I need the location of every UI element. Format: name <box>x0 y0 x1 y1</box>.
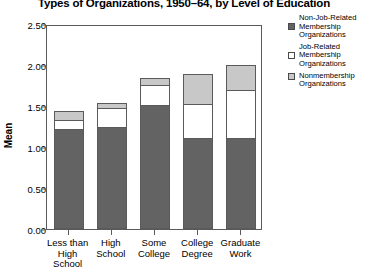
y-axis-tick-label: 2.00 <box>4 61 46 72</box>
legend-label: Non-Job-RelatedMembershipOrganizations <box>299 14 368 40</box>
y-axis-label: Mean <box>3 106 14 166</box>
legend-swatch-icon <box>288 23 295 30</box>
legend-swatch-icon <box>288 52 295 59</box>
x-axis-tick-mark <box>154 230 155 235</box>
x-axis-tick-mark <box>111 230 112 235</box>
y-axis: Mean 0.000.501.001.502.002.50 <box>0 25 46 230</box>
legend-item[interactable]: Job-RelatedMembershipOrganizations <box>288 43 368 69</box>
y-axis-tick-label: 0.00 <box>4 225 46 236</box>
chart-legend: Non-Job-RelatedMembershipOrganizationsJo… <box>288 14 368 92</box>
legend-label: NonmembershipOrganizations <box>299 72 368 89</box>
bar-segment[interactable] <box>226 65 256 91</box>
bar-segment[interactable] <box>226 90 256 139</box>
bar-segment[interactable] <box>183 74 213 104</box>
chart-title: Types of Organizations, 1950–64, by Leve… <box>0 0 368 9</box>
bar-segment[interactable] <box>140 85 170 106</box>
bar-stack[interactable] <box>226 65 256 229</box>
y-axis-tick-label: 0.50 <box>4 184 46 195</box>
legend-swatch-icon <box>288 73 295 80</box>
plot-area <box>46 25 262 230</box>
bar-stack[interactable] <box>54 111 84 229</box>
legend-label-line: Organizations <box>299 80 368 89</box>
x-axis-tick-label: GraduateWork <box>208 238 272 259</box>
y-axis-tick-label: 1.00 <box>4 143 46 154</box>
legend-item[interactable]: NonmembershipOrganizations <box>288 72 368 89</box>
bar-stack[interactable] <box>97 103 127 229</box>
legend-item[interactable]: Non-Job-RelatedMembershipOrganizations <box>288 14 368 40</box>
x-axis-label-line: Graduate <box>208 238 272 249</box>
y-axis-tick-label: 2.50 <box>4 20 46 31</box>
bar-segment[interactable] <box>183 138 213 229</box>
legend-label-line: Organizations <box>299 31 368 40</box>
x-axis-label-line: Work <box>208 249 272 260</box>
x-axis-tick-mark <box>68 230 69 235</box>
x-axis: Less thanHighSchoolHighSchoolSomeCollege… <box>46 230 262 262</box>
x-axis-tick-mark <box>197 230 198 235</box>
bar-segment[interactable] <box>183 104 213 139</box>
bar-segment[interactable] <box>97 108 127 129</box>
legend-label-line: Organizations <box>299 60 368 69</box>
x-axis-label-line: School <box>36 259 100 270</box>
bar-stack[interactable] <box>140 78 170 229</box>
bar-segment[interactable] <box>140 105 170 229</box>
bar-segment[interactable] <box>97 127 127 229</box>
bar-stack[interactable] <box>183 74 213 229</box>
bar-segment[interactable] <box>54 129 84 229</box>
y-axis-tick-label: 1.50 <box>4 102 46 113</box>
x-axis-tick-mark <box>240 230 241 235</box>
bar-segment[interactable] <box>226 138 256 229</box>
legend-label: Job-RelatedMembershipOrganizations <box>299 43 368 69</box>
